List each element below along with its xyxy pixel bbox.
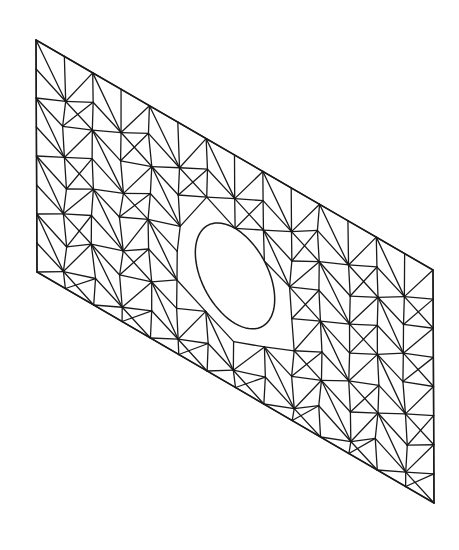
- mesh-edge: [264, 347, 291, 376]
- mesh-edge: [349, 381, 378, 413]
- mesh-edge: [150, 338, 178, 339]
- mesh-edge: [207, 343, 208, 371]
- mesh-edge: [349, 442, 351, 454]
- mesh-edge: [349, 353, 350, 381]
- mesh-edge: [63, 214, 91, 216]
- mesh-edge: [263, 230, 291, 261]
- mesh-edge: [351, 413, 378, 442]
- mesh-edge: [63, 247, 66, 272]
- mesh-edge: [321, 352, 322, 380]
- mesh-edge: [149, 249, 177, 280]
- mesh-edge: [317, 230, 319, 261]
- mesh-edge: [320, 321, 349, 353]
- mesh-edge: [148, 106, 149, 134]
- mesh-edge: [348, 221, 349, 265]
- mesh-edge: [349, 265, 377, 267]
- mesh-edge: [123, 167, 151, 194]
- mesh-edge: [63, 244, 91, 271]
- mesh-edge: [320, 321, 322, 352]
- mesh-edge: [290, 261, 292, 287]
- mesh-edge: [178, 339, 207, 371]
- mesh-edge: [148, 133, 151, 166]
- mesh-edge: [64, 157, 92, 158]
- mesh-edge: [92, 130, 121, 133]
- mesh-edge: [235, 228, 263, 230]
- mesh-edge: [207, 370, 233, 371]
- mesh-edge: [94, 279, 96, 305]
- mesh-edge: [319, 262, 349, 324]
- mesh-edge: [375, 413, 378, 438]
- mesh-edge: [406, 472, 434, 474]
- mesh-edge: [150, 167, 151, 194]
- mesh-edge: [403, 353, 433, 357]
- mesh-edge: [92, 159, 93, 190]
- mesh-edge: [378, 413, 405, 414]
- mesh-edge: [207, 169, 208, 197]
- mesh-edge: [63, 214, 66, 247]
- mesh-edge: [122, 307, 151, 311]
- mesh-edge: [378, 413, 406, 472]
- mesh-edge: [178, 311, 206, 339]
- mesh-edge: [91, 244, 122, 307]
- mesh-edge: [319, 262, 348, 265]
- mesh-edge: [148, 219, 149, 249]
- mesh-edge: [292, 319, 321, 321]
- mesh-edge: [177, 226, 180, 251]
- mesh-edge: [37, 185, 64, 214]
- mesh-edge: [37, 243, 64, 272]
- mesh-edge: [265, 377, 294, 409]
- mesh-edge: [377, 267, 378, 297]
- mesh-edge: [92, 130, 120, 161]
- mesh-edge: [377, 354, 379, 385]
- mesh-edge: [92, 159, 123, 194]
- mesh-edge: [378, 413, 407, 445]
- mesh-edge: [152, 282, 178, 339]
- mesh-edge: [235, 171, 263, 198]
- mesh-edge: [180, 139, 207, 168]
- mesh-edge: [122, 282, 152, 307]
- mesh-edge: [123, 249, 148, 251]
- mesh-edge: [378, 385, 379, 413]
- mesh-edge: [178, 339, 179, 354]
- mesh-edge: [319, 380, 322, 405]
- mesh-edge: [319, 290, 350, 324]
- mesh-edge: [63, 102, 94, 126]
- mesh-edge: [294, 409, 320, 437]
- mesh-edge: [349, 265, 351, 296]
- mesh-edge: [36, 98, 62, 126]
- mesh-edge: [37, 214, 64, 272]
- mesh-edge: [349, 381, 379, 385]
- mesh-edge: [403, 328, 433, 353]
- mesh-edge: [233, 347, 264, 370]
- mesh-edge: [317, 204, 319, 230]
- mesh-edge: [150, 311, 151, 338]
- mesh-edge: [378, 297, 403, 324]
- mesh-edge: [148, 219, 177, 280]
- mesh-edge: [320, 321, 348, 381]
- mesh-edge: [406, 445, 408, 472]
- mesh-edge: [405, 387, 433, 414]
- mesh-edge: [91, 189, 93, 215]
- mesh-edge: [36, 127, 64, 157]
- mesh-edge: [65, 279, 95, 289]
- mesh-edge: [93, 189, 119, 217]
- mesh-edge: [36, 98, 64, 157]
- mesh-edge: [290, 262, 320, 287]
- mesh-edge: [379, 385, 406, 414]
- mesh-edge: [63, 214, 91, 244]
- mesh-edge: [317, 230, 348, 265]
- mesh-edge: [66, 101, 93, 102]
- mesh-edge: [120, 249, 149, 275]
- mesh-edge: [292, 352, 322, 376]
- mesh-edge: [121, 133, 148, 134]
- mesh-edge: [377, 354, 403, 381]
- mesh-edge: [63, 126, 93, 130]
- mesh-edge: [405, 414, 407, 445]
- mesh-edge: [63, 101, 66, 126]
- mesh-edge: [292, 351, 295, 377]
- fe-mesh-plate: [0, 0, 459, 550]
- mesh-edge: [350, 296, 378, 297]
- mesh-edge: [180, 168, 208, 169]
- mesh-edge: [322, 352, 349, 381]
- mesh-edge: [206, 139, 207, 170]
